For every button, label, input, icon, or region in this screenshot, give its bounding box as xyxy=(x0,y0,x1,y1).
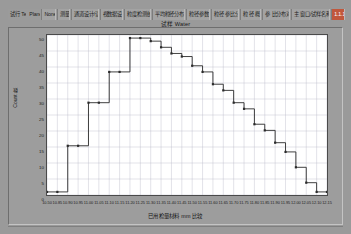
y-tick-label: 35 xyxy=(23,86,44,90)
x-tick-label: 10.85 xyxy=(53,198,63,207)
x-tick-label: 11.90 xyxy=(270,198,279,207)
y-tick-label: 30 xyxy=(23,102,44,106)
menu-item-8[interactable]: 粒径参数图 xyxy=(186,9,209,20)
y-axis-ticks: 05101520253035404550 xyxy=(23,34,44,196)
y-tick-label: 0 xyxy=(23,198,44,202)
y-axis-label: Count 数 xyxy=(11,88,21,108)
y-tick-label: 5 xyxy=(23,182,44,186)
x-tick-label: 11.85 xyxy=(260,198,269,207)
x-tick-label: 10.95 xyxy=(73,198,83,207)
x-tick-label: 12.10 xyxy=(312,198,322,207)
menu-item-10[interactable]: 粒 径 概要 xyxy=(240,9,262,20)
x-tick-label: 11.80 xyxy=(250,198,259,207)
menu-item-12[interactable]: 主 窗口/试样名称记录 xyxy=(291,9,330,20)
x-tick-label: 11.40 xyxy=(167,198,176,207)
x-tick-label: 12.00 xyxy=(291,198,301,207)
y-tick-label: 15 xyxy=(23,150,44,154)
menu-item-2[interactable]: None xyxy=(41,9,56,20)
chart-svg xyxy=(47,35,327,195)
x-tick-label: 11.65 xyxy=(219,198,228,207)
menu-item-9[interactable]: 粒径 参比分布 xyxy=(211,9,239,20)
menu-item-3[interactable]: 测量 xyxy=(57,9,70,20)
plot-canvas[interactable] xyxy=(46,34,328,196)
x-tick-label: 11.55 xyxy=(198,198,207,207)
x-tick-label: 10.90 xyxy=(63,198,73,207)
menu-item-0[interactable]: 试行 Test xyxy=(8,9,26,20)
x-tick-label: 11.15 xyxy=(115,198,124,207)
menu-item-11[interactable]: 参 比分布对照 xyxy=(262,9,290,20)
y-tick-label: 45 xyxy=(23,54,44,58)
x-tick-label: 11.25 xyxy=(136,198,145,207)
x-tick-label: 11.45 xyxy=(177,198,186,207)
plot-area[interactable] xyxy=(46,34,328,196)
chart-panel: Count 数 05101520253035404550 10.5010.851… xyxy=(8,27,343,225)
x-tick-label: 11.35 xyxy=(156,198,165,207)
y-tick-label: 50 xyxy=(23,38,44,42)
x-tick-label: 12.15 xyxy=(322,198,332,207)
y-tick-label: 10 xyxy=(23,166,44,170)
x-tick-label: 11.95 xyxy=(281,198,290,207)
y-tick-label: 20 xyxy=(23,134,44,138)
x-tick-label: 11.30 xyxy=(146,198,155,207)
x-tick-label: 11.20 xyxy=(125,198,134,207)
app-window: 试行 TestPlaneNone测量通道设计/读取视数据设置粒度检测统计平均粒径… xyxy=(0,0,351,234)
x-tick-label: 11.75 xyxy=(239,198,248,207)
y-tick-label: 40 xyxy=(23,70,44,74)
x-tick-label: 11.05 xyxy=(94,198,103,207)
y-tick-label: 25 xyxy=(23,118,44,122)
menu-item-1[interactable]: Plane xyxy=(27,9,40,20)
x-tick-label: 11.50 xyxy=(187,198,196,207)
x-tick-label: 11.60 xyxy=(208,198,217,207)
x-tick-label: 11.10 xyxy=(104,198,113,207)
menu-item-13[interactable]: 1.1.1 xyxy=(331,9,345,20)
x-tick-label: 11.00 xyxy=(84,198,93,207)
x-tick-label: 12.05 xyxy=(301,198,311,207)
x-tick-label: 10.50 xyxy=(42,198,52,207)
x-axis-ticks: 10.5010.8510.9010.9511.0011.0511.1011.15… xyxy=(46,198,328,207)
menubar: 试行 TestPlaneNone测量通道设计/读取视数据设置粒度检测统计平均粒径… xyxy=(8,9,345,20)
x-tick-label: 11.70 xyxy=(229,198,238,207)
menu-item-6[interactable]: 粒度检测统计 xyxy=(124,9,151,20)
menu-item-5[interactable]: 视数据设置 xyxy=(100,9,123,20)
status-bar xyxy=(8,226,343,232)
menu-item-4[interactable]: 通道设计/读取 xyxy=(71,9,99,20)
menu-item-7[interactable]: 平均粒径分布比较 xyxy=(152,9,186,20)
x-axis-label: 已用检量材料 mm 比较 xyxy=(9,212,342,220)
